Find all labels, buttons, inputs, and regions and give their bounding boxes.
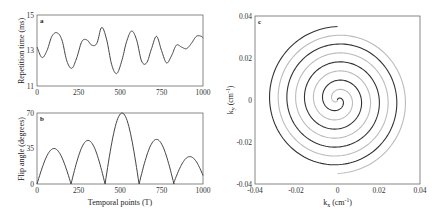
panel-b-frame (37, 113, 203, 184)
ytick: 0.02 (239, 54, 252, 63)
ytick: 35 (27, 144, 35, 153)
xtick: 0 (35, 88, 39, 97)
ytick: 0 (30, 180, 34, 189)
xtick: 500 (114, 186, 126, 195)
panel-b-label: b (40, 115, 44, 123)
xtick: 500 (114, 88, 126, 97)
xtick: -0.04 (247, 186, 263, 195)
panel-a-ylabel: Repetition time (ms) (17, 18, 26, 85)
xtick: -0.02 (288, 186, 304, 195)
xtick: 1000 (196, 88, 211, 97)
ytick: 11 (27, 82, 34, 91)
ytick: 0 (248, 96, 252, 105)
ytick: 70 (27, 109, 35, 118)
xtick: 1000 (196, 186, 211, 195)
panel-c-xlabel: kx (cm-1) (323, 197, 352, 208)
xtick: 0 (336, 186, 340, 195)
xtick: 750 (156, 186, 168, 195)
ytick: -0.02 (236, 138, 252, 147)
panel-c: c 0.04 0.02 0 -0.02 -0.04 -0.04 -0.02 0 … (225, 12, 427, 208)
panel-b-ylabel: Flip angle (degrees) (17, 117, 26, 181)
ytick: 15 (27, 11, 35, 20)
panel-a-label: a (40, 17, 44, 25)
ytick: 0.04 (239, 12, 252, 21)
xtick: 250 (73, 186, 85, 195)
panel-c-ylabel: ky (cm-1) (225, 85, 236, 114)
xtick: 750 (156, 88, 168, 97)
xtick: 0 (35, 186, 39, 195)
repetition-time-curve (37, 27, 203, 73)
xtick: 0.04 (413, 186, 426, 195)
xtick: 0.02 (372, 186, 385, 195)
ytick: 13 (27, 46, 35, 55)
figure: a 15 13 11 0 250 500 750 1000 Repetition… (0, 0, 439, 217)
xtick: 250 (73, 88, 85, 97)
panel-a-frame (37, 15, 203, 86)
flip-angle-curve (37, 113, 203, 184)
panel-a: a 15 13 11 0 250 500 750 1000 Repetition… (17, 11, 211, 97)
panel-c-label: c (258, 18, 261, 26)
panel-b: b 70 35 0 0 250 500 750 1000 Flip angle … (17, 109, 211, 207)
panel-b-xlabel: Temporal points (T) (88, 198, 153, 207)
